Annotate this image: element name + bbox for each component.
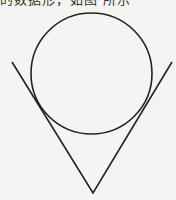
- v-shape-lines: [12, 62, 172, 193]
- geometry-figure: [0, 0, 176, 200]
- inscribed-circle: [31, 13, 152, 134]
